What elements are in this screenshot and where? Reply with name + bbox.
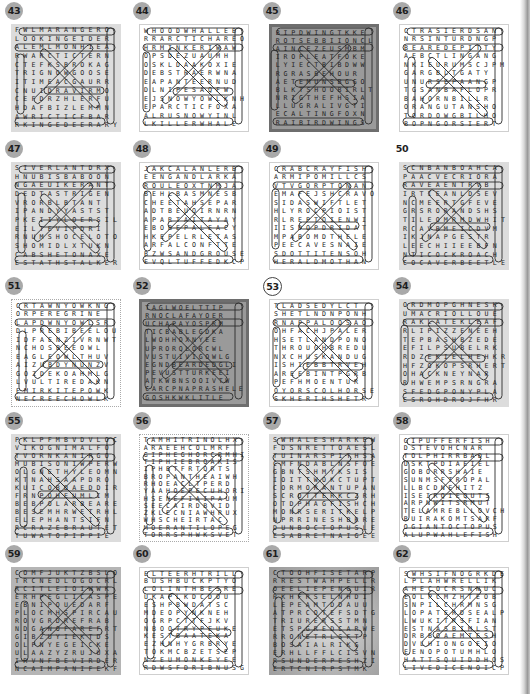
grid-letter: C bbox=[312, 387, 320, 396]
grid-letter: C bbox=[70, 113, 78, 122]
grid-letter: H bbox=[280, 311, 288, 320]
grid-letter: P bbox=[13, 436, 21, 444]
grid-letter: T bbox=[304, 476, 312, 484]
grid-letter: O bbox=[78, 61, 86, 70]
grid-letter: G bbox=[54, 593, 62, 601]
grid-letter: D bbox=[271, 524, 279, 532]
grid-letter: D bbox=[344, 353, 352, 362]
grid-letter: U bbox=[21, 484, 29, 492]
grid-letter: Y bbox=[482, 70, 490, 79]
grid-letter: O bbox=[86, 173, 94, 182]
grid-letter bbox=[499, 445, 506, 453]
grid-letter: U bbox=[328, 45, 336, 53]
puzzle-number-badge: 43 bbox=[5, 2, 23, 20]
grid-letter: F bbox=[328, 500, 336, 508]
grid-letter bbox=[111, 173, 119, 182]
grid-letter: G bbox=[13, 633, 21, 641]
grid-letter: T bbox=[198, 216, 206, 225]
grid-letter: G bbox=[78, 577, 86, 585]
grid-letter: A bbox=[312, 500, 320, 508]
grid-letter: V bbox=[491, 190, 499, 199]
grid-letter: G bbox=[297, 94, 305, 102]
grid-letter: A bbox=[198, 27, 206, 36]
grid-letter: L bbox=[21, 468, 29, 476]
grid-letter: M bbox=[37, 233, 45, 242]
grid-letter bbox=[111, 26, 119, 35]
grid-letter: R bbox=[450, 609, 458, 617]
grid-letter: M bbox=[295, 484, 303, 492]
grid-letter: O bbox=[46, 484, 54, 492]
grid-letter bbox=[368, 353, 376, 362]
grid-letter: H bbox=[287, 649, 295, 657]
grid-letter: O bbox=[458, 164, 466, 173]
grid-letter: R bbox=[336, 345, 344, 354]
grid-letter: I bbox=[78, 585, 86, 593]
grid-letter: B bbox=[70, 328, 78, 337]
grid-letter bbox=[111, 585, 119, 593]
grid-letter: T bbox=[295, 468, 303, 476]
grid-letter: X bbox=[103, 649, 111, 657]
grid-letter: E bbox=[369, 460, 377, 468]
grid-letter: H bbox=[344, 259, 352, 268]
grid-letter: P bbox=[442, 233, 450, 242]
grid-letter: E bbox=[474, 609, 482, 617]
grid-letter: N bbox=[29, 476, 37, 484]
grid-letter: E bbox=[142, 259, 150, 268]
grid-letter: D bbox=[46, 87, 54, 96]
grid-letter: R bbox=[78, 181, 86, 190]
grid-letter: B bbox=[402, 121, 410, 130]
grid-letter: A bbox=[204, 386, 211, 394]
grid-letter: P bbox=[78, 532, 86, 540]
grid-letter: E bbox=[491, 310, 499, 319]
grid-letter: R bbox=[483, 233, 491, 242]
grid-letter bbox=[499, 437, 506, 445]
grid-letter: Y bbox=[230, 225, 238, 234]
grid-letter: M bbox=[70, 444, 78, 452]
grid-letter: E bbox=[312, 302, 320, 311]
grid-letter bbox=[110, 345, 118, 354]
grid-letter: S bbox=[320, 191, 328, 200]
grid-letter: L bbox=[217, 345, 224, 353]
grid-letter: K bbox=[491, 353, 499, 362]
grid-letter: S bbox=[280, 336, 288, 345]
grid-letter: R bbox=[103, 35, 111, 44]
grid-letter: O bbox=[21, 35, 29, 44]
grid-letter: W bbox=[94, 387, 102, 396]
grid-letter: A bbox=[70, 173, 78, 182]
grid-letter: T bbox=[184, 369, 191, 377]
letter-grid: SWHSIFNOGRKDELPLAHWRELLIKAHECOCRSNNUCEOL… bbox=[399, 567, 509, 675]
grid-letter: V bbox=[29, 617, 37, 625]
grid-letter bbox=[368, 319, 376, 328]
grid-letter: O bbox=[434, 251, 442, 260]
grid-letter: N bbox=[174, 78, 182, 87]
grid-letter: T bbox=[70, 259, 78, 268]
grid-letter: R bbox=[157, 345, 164, 353]
grid-letter bbox=[239, 459, 246, 466]
grid-letter bbox=[369, 468, 377, 476]
grid-letter: E bbox=[86, 328, 94, 337]
grid-letter: E bbox=[142, 174, 150, 183]
grid-letter: N bbox=[352, 311, 360, 320]
grid-letter: G bbox=[46, 121, 54, 130]
grid-letter: G bbox=[271, 468, 279, 476]
grid-letter bbox=[111, 181, 119, 190]
grid-letter: A bbox=[37, 259, 45, 268]
grid-letter: P bbox=[369, 569, 377, 577]
grid-letter: K bbox=[86, 302, 94, 311]
grid-letter: A bbox=[29, 104, 37, 113]
grid-letter: I bbox=[21, 633, 29, 641]
grid-letter: B bbox=[328, 345, 336, 354]
grid-letter: V bbox=[86, 436, 94, 444]
grid-letter: I bbox=[78, 311, 86, 320]
grid-letter: N bbox=[54, 35, 62, 44]
grid-letter: S bbox=[466, 609, 474, 617]
grid-letter bbox=[239, 532, 246, 539]
grid-letter: E bbox=[103, 657, 111, 665]
grid-letter: A bbox=[418, 44, 426, 53]
grid-letter: C bbox=[95, 577, 103, 585]
grid-letter bbox=[238, 182, 246, 191]
grid-letter: R bbox=[166, 104, 174, 113]
grid-letter: K bbox=[21, 121, 29, 130]
grid-letter: F bbox=[174, 664, 182, 672]
grid-letter: I bbox=[410, 664, 418, 672]
